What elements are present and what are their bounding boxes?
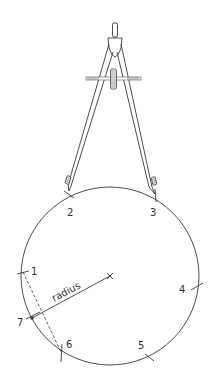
compass-thumb-wheel xyxy=(111,69,117,89)
point-label-3: 3 xyxy=(150,207,156,218)
drawing-compass-icon xyxy=(65,23,157,194)
point-label-6: 6 xyxy=(66,339,72,350)
arc-mark-3 xyxy=(155,189,156,202)
compass-head xyxy=(108,38,122,57)
compass-handle xyxy=(113,23,118,37)
point-label-1: 1 xyxy=(31,266,37,277)
arc-mark-1 xyxy=(17,271,29,274)
compass-left-leg xyxy=(65,44,113,191)
compass-circle-diagram: radius 1 2 3 4 5 6 7 xyxy=(0,0,214,390)
point-label-7: 7 xyxy=(17,317,23,328)
point-7-dot xyxy=(30,316,34,320)
arc-mark-6 xyxy=(61,344,62,362)
compass-right-leg xyxy=(117,44,157,194)
arc-mark-4 xyxy=(191,283,203,290)
point-label-5: 5 xyxy=(138,340,144,351)
diagram-canvas: radius 1 2 3 4 5 6 7 xyxy=(0,0,214,390)
point-label-2: 2 xyxy=(67,207,73,218)
arc-mark-7 xyxy=(26,312,40,320)
point-label-4: 4 xyxy=(179,284,185,295)
